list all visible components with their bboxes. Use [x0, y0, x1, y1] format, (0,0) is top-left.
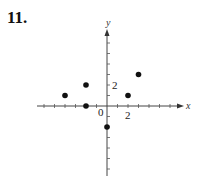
y-tick-label: 2: [112, 79, 118, 91]
data-point: [125, 93, 131, 99]
data-point: [136, 72, 142, 78]
data-point: [83, 103, 89, 109]
x-axis-arrow-icon: [177, 104, 184, 109]
x-tick-label: 2: [125, 109, 131, 121]
scatter-plot: xy022: [0, 0, 201, 190]
y-axis-arrow-icon: [105, 29, 110, 36]
data-point: [83, 82, 89, 88]
x-axis-label: x: [185, 100, 191, 111]
origin-label: 0: [98, 106, 104, 118]
data-point: [62, 93, 68, 99]
data-point: [104, 124, 110, 130]
y-axis-label: y: [105, 17, 111, 28]
